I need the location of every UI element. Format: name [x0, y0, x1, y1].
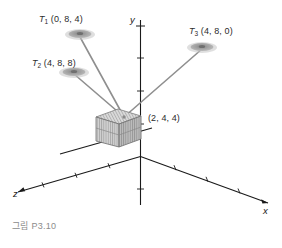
cable-t1	[80, 37, 124, 117]
label-t1: T1 (0, 8, 4)	[39, 14, 83, 25]
axis-group	[18, 20, 268, 205]
label-t2: T2 (4, 8, 8)	[32, 58, 76, 69]
label-t2-subscript: 2	[38, 62, 42, 69]
label-t1-coords: (0, 8, 4)	[51, 14, 83, 24]
y-axis	[136, 20, 145, 205]
label-crate-point: (2, 4, 4)	[148, 113, 180, 123]
figure-diagram: T1 (0, 8, 4) T2 (4, 8, 8) T3 (4, 8, 0) (…	[0, 0, 282, 248]
label-t3-subscript: 3	[195, 30, 199, 37]
cable-t3	[124, 49, 202, 117]
figure-caption: 그림 P3.10	[12, 219, 56, 232]
label-t3: T3 (4, 8, 0)	[189, 26, 233, 37]
diagram-canvas	[0, 0, 282, 248]
label-t1-subscript: 1	[45, 18, 49, 25]
axis-label-y: y	[130, 14, 135, 25]
axis-label-z: z	[13, 188, 18, 199]
z-axis	[18, 157, 141, 193]
x-axis	[141, 157, 269, 204]
anchor-t3	[187, 42, 217, 53]
axis-label-x: x	[263, 205, 268, 216]
label-t2-coords: (4, 8, 8)	[44, 58, 76, 68]
cable-group	[74, 37, 202, 117]
label-t3-coords: (4, 8, 0)	[201, 26, 233, 36]
crate	[96, 109, 141, 147]
anchor-t1	[65, 29, 95, 40]
